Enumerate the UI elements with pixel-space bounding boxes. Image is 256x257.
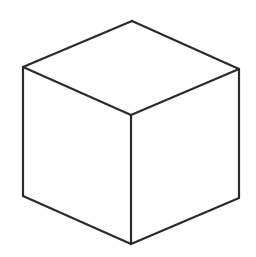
cube-figure [0, 0, 256, 257]
drawing-canvas [0, 0, 256, 257]
